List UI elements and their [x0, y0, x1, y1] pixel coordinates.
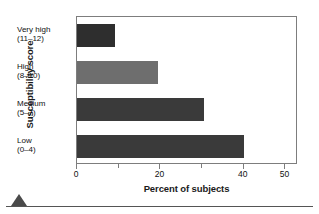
x-axis-title: Percent of subjects [76, 183, 297, 194]
category-label-line1: Very high [17, 25, 73, 35]
category-label-line2: (5–7) [17, 108, 73, 118]
category-label-line2: (8–10) [17, 71, 73, 81]
category-label-medium: Medium (5–7) [17, 99, 73, 118]
category-label-very-high: Very high (11–12) [17, 25, 73, 44]
category-label-line2: (0–4) [17, 145, 73, 155]
category-label-high: High (8–10) [17, 62, 73, 81]
bar-very-high [77, 24, 115, 47]
x-tick-label-20: 20 [155, 169, 164, 179]
bar-high [77, 61, 158, 84]
x-tick-label-0: 0 [74, 169, 79, 179]
x-axis-tick-labels: 0204050 [76, 169, 297, 183]
bar-medium [77, 98, 204, 121]
bar-chart-figure: Susceptibility score Very high (11–12) H… [0, 0, 319, 214]
bar-low [77, 135, 244, 158]
x-tick-30 [201, 164, 202, 168]
x-tick-label-50: 50 [280, 169, 289, 179]
category-label-line1: Medium [17, 99, 73, 109]
category-label-low: Low (0–4) [17, 136, 73, 155]
x-tick-10 [118, 164, 119, 168]
category-label-line1: High [17, 62, 73, 72]
category-label-line1: Low [17, 136, 73, 146]
plot-area [76, 16, 297, 164]
bar-series [77, 17, 296, 163]
category-label-line2: (11–12) [17, 34, 73, 44]
y-axis-tick-labels: Very high (11–12) High (8–10) Medium (5–… [18, 16, 75, 164]
triangle-up-icon [11, 194, 27, 206]
footer-divider [6, 206, 313, 207]
x-tick-label-40: 40 [238, 169, 247, 179]
